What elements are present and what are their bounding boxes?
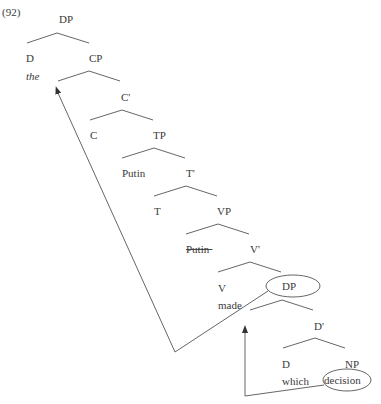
tree-branch <box>218 262 281 272</box>
node-label-decision: decision <box>324 374 361 386</box>
example-number: (92) <box>2 6 21 19</box>
tree-branches <box>27 33 345 348</box>
node-label-made: made <box>218 299 242 311</box>
node-label-t-bar: T' <box>186 167 195 179</box>
node-label-d-bar: D' <box>314 320 324 332</box>
node-label-v-bar: V' <box>250 243 260 255</box>
tree-branch <box>250 300 313 310</box>
node-label-c-bar: C' <box>121 91 130 103</box>
node-label-d-low: D <box>282 358 290 370</box>
tree-branch <box>90 110 153 120</box>
node-label-cp: CP <box>89 52 102 64</box>
node-label-d-top: D <box>26 52 34 64</box>
node-label-the: the <box>26 70 40 82</box>
node-label-dp-object: DP <box>282 280 296 292</box>
syntax-tree-diagram: (92) DPDtheCPC'CTPPutinT'TVPPutinV'Vmade… <box>0 0 381 404</box>
node-labels: DPDtheCPC'CTPPutinT'TVPPutinV'VmadeDPD'D… <box>26 13 361 387</box>
node-label-putin-subject: Putin <box>122 167 146 179</box>
node-label-np: NP <box>345 358 359 370</box>
node-label-vp: VP <box>217 205 231 217</box>
tree-branch <box>154 186 217 196</box>
tree-branch <box>27 33 89 43</box>
tree-branch <box>186 224 249 234</box>
node-label-dp-root: DP <box>59 13 73 25</box>
node-label-tp: TP <box>153 129 166 141</box>
node-label-v: V <box>218 282 226 294</box>
tree-branch <box>283 338 345 348</box>
tree-branch <box>58 71 120 81</box>
node-label-putin-trace: Putin <box>186 243 210 255</box>
node-label-which: which <box>282 375 309 387</box>
node-label-t: T <box>154 205 161 217</box>
node-label-c: C <box>90 129 97 141</box>
tree-branch <box>122 148 185 158</box>
